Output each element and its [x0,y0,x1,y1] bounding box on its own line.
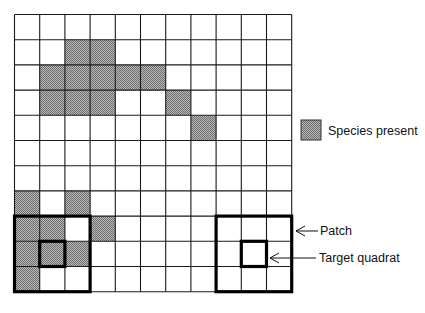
legend-swatch [301,120,321,140]
shaded-cell [115,65,140,90]
quadrat-diagram: Species present Patch Target quadrat [0,0,425,313]
shaded-cell [90,216,115,241]
shaded-cell [90,40,115,65]
target-quadrat-label: Target quadrat [319,251,400,265]
shaded-cell [65,90,90,115]
shaded-cell [40,65,65,90]
target-quadrat-right [241,241,266,266]
shaded-cell [40,216,65,241]
patch-label: Patch [320,224,352,238]
shaded-cell [65,191,90,216]
patch-annotation: Patch [296,224,352,238]
legend-label: Species present [328,124,418,138]
shaded-cell [191,115,216,140]
shaded-cell [40,90,65,115]
legend: Species present [301,120,418,140]
shaded-cell [90,65,115,90]
shaded-cell [15,267,40,292]
shaded-cell [65,65,90,90]
patch-right [216,216,292,292]
shaded-cell [141,65,166,90]
shaded-cell [90,90,115,115]
shaded-cell [65,40,90,65]
shaded-cell [40,241,65,266]
shaded-cell [15,191,40,216]
shaded-cell [15,241,40,266]
shaded-cell [65,241,90,266]
target-annotation: Target quadrat [270,251,400,265]
shaded-cell [166,90,191,115]
shaded-cell [15,216,40,241]
